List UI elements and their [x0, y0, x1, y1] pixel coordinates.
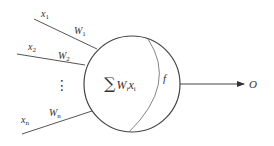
input-label-2: x2 [27, 41, 36, 54]
input-line-1 [34, 19, 97, 49]
activation-label: f [163, 72, 168, 84]
output-label: O [249, 78, 257, 90]
weight-label-n: Wn [49, 107, 61, 120]
summation-label: ∑Wixi [104, 74, 136, 93]
input-line-2 [17, 54, 85, 65]
input-label-1: x1 [40, 8, 49, 21]
input-label-n: xn [20, 114, 29, 127]
weight-label-1: W1 [74, 25, 86, 38]
ellipsis: ⋮ [55, 77, 69, 93]
neuron-diagram: x1 W1 x2 W2 ⋮ xn Wn ∑Wixi f O [0, 0, 274, 146]
